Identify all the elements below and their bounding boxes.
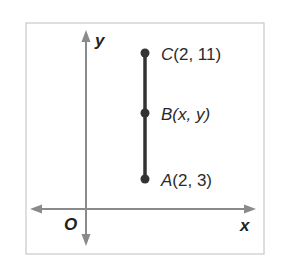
x-axis-label: x bbox=[239, 216, 251, 235]
point-b-label: B(x, y) bbox=[161, 105, 210, 124]
point-b-dot bbox=[141, 109, 150, 118]
coordinate-diagram: y x O C(2, 11) B(x, y) A(2, 3) bbox=[0, 0, 283, 266]
point-a-label: A(2, 3) bbox=[160, 171, 212, 190]
y-axis-label: y bbox=[94, 31, 106, 50]
point-c-label: C(2, 11) bbox=[161, 45, 221, 64]
point-a-dot bbox=[141, 175, 150, 184]
origin-label: O bbox=[64, 215, 77, 234]
point-c-dot bbox=[141, 49, 150, 58]
